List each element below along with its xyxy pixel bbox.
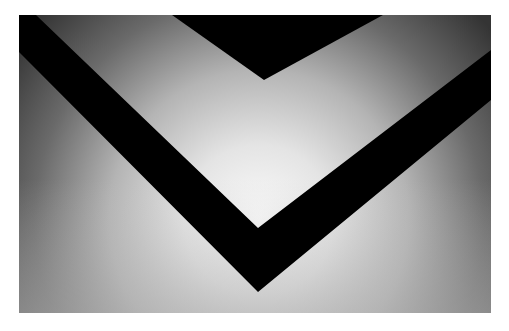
chevron-artwork	[19, 15, 491, 313]
abstract-photo	[19, 15, 491, 313]
